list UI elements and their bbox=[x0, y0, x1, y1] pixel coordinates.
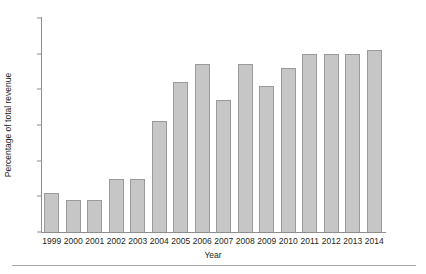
x-tick-label: 2001 bbox=[85, 236, 104, 246]
x-tick-label: 2008 bbox=[236, 236, 255, 246]
y-tick-mark bbox=[37, 18, 41, 19]
x-tick-label: 2002 bbox=[107, 236, 126, 246]
x-tick-label: 2006 bbox=[193, 236, 212, 246]
x-tick-label: 2005 bbox=[171, 236, 190, 246]
footer-divider bbox=[12, 265, 416, 266]
bar-chart-figure: Percentage of total revenue 010203040506… bbox=[0, 0, 426, 274]
bar[interactable] bbox=[216, 100, 231, 232]
bar[interactable] bbox=[259, 86, 274, 232]
bar-slot bbox=[173, 18, 188, 232]
bar-slot bbox=[324, 18, 339, 232]
x-tick-label: 2014 bbox=[365, 236, 384, 246]
bar[interactable] bbox=[173, 82, 188, 232]
bar-slot bbox=[87, 18, 102, 232]
x-axis-title: Year bbox=[0, 250, 426, 260]
x-tick-label: 2004 bbox=[150, 236, 169, 246]
bar[interactable] bbox=[281, 68, 296, 232]
bar[interactable] bbox=[152, 121, 167, 232]
x-tick-label: 1999 bbox=[42, 236, 61, 246]
bar-slot bbox=[345, 18, 360, 232]
x-tick-label: 2011 bbox=[301, 236, 319, 246]
x-tick-label: 2013 bbox=[343, 236, 362, 246]
y-tick-mark bbox=[37, 160, 41, 161]
bar-slot bbox=[130, 18, 145, 232]
bar[interactable] bbox=[345, 54, 360, 232]
bar-slot bbox=[66, 18, 81, 232]
bar-slot bbox=[367, 18, 382, 232]
x-tick-label: 2003 bbox=[128, 236, 147, 246]
bar[interactable] bbox=[44, 193, 59, 232]
bar[interactable] bbox=[195, 64, 210, 232]
bar[interactable] bbox=[66, 200, 81, 232]
bar[interactable] bbox=[109, 179, 124, 233]
bar[interactable] bbox=[324, 54, 339, 232]
y-tick-mark bbox=[37, 125, 41, 126]
bar[interactable] bbox=[302, 54, 317, 232]
bar-series bbox=[41, 18, 385, 232]
bar-slot bbox=[109, 18, 124, 232]
y-tick-mark bbox=[37, 196, 41, 197]
x-tick-label: 2007 bbox=[214, 236, 233, 246]
y-tick-mark bbox=[37, 232, 41, 233]
bar[interactable] bbox=[238, 64, 253, 232]
bar-slot bbox=[195, 18, 210, 232]
x-tick-label: 2000 bbox=[64, 236, 83, 246]
bar[interactable] bbox=[87, 200, 102, 232]
bar-slot bbox=[259, 18, 274, 232]
y-tick-mark bbox=[37, 53, 41, 54]
x-axis-line bbox=[41, 232, 386, 233]
bar-slot bbox=[302, 18, 317, 232]
bar-slot bbox=[152, 18, 167, 232]
bar[interactable] bbox=[367, 50, 382, 232]
x-tick-label: 2009 bbox=[257, 236, 276, 246]
bar-slot bbox=[216, 18, 231, 232]
x-tick-label: 2012 bbox=[322, 236, 341, 246]
y-tick-mark bbox=[37, 89, 41, 90]
bar-slot bbox=[281, 18, 296, 232]
x-tick-label: 2010 bbox=[279, 236, 298, 246]
bar-slot bbox=[44, 18, 59, 232]
bar[interactable] bbox=[130, 179, 145, 233]
bar-slot bbox=[238, 18, 253, 232]
y-axis-tick-labels: 0102030405060 bbox=[0, 0, 41, 274]
